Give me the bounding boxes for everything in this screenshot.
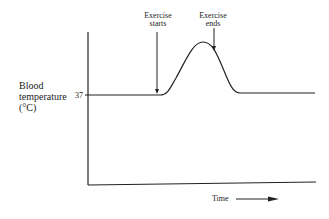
x-axis-label: Time <box>212 194 229 203</box>
ylabel-line2: temperature <box>19 91 67 102</box>
end-line2: ends <box>193 20 233 28</box>
ylabel-line1: Blood <box>19 80 67 91</box>
arrowhead-icon <box>212 46 216 51</box>
start-line2: starts <box>138 20 178 28</box>
x-axis <box>88 182 316 185</box>
y-axis-label: Blood temperature (°C) <box>19 80 67 113</box>
tick-label-37: 37 <box>75 91 83 100</box>
temperature-curve <box>88 42 315 95</box>
arrowhead-icon <box>155 89 159 94</box>
exercise-ends-label: Exercise ends <box>193 12 233 28</box>
exercise-starts-label: Exercise starts <box>138 12 178 28</box>
arrowhead-icon <box>268 197 279 202</box>
ylabel-line3: (°C) <box>19 102 67 113</box>
